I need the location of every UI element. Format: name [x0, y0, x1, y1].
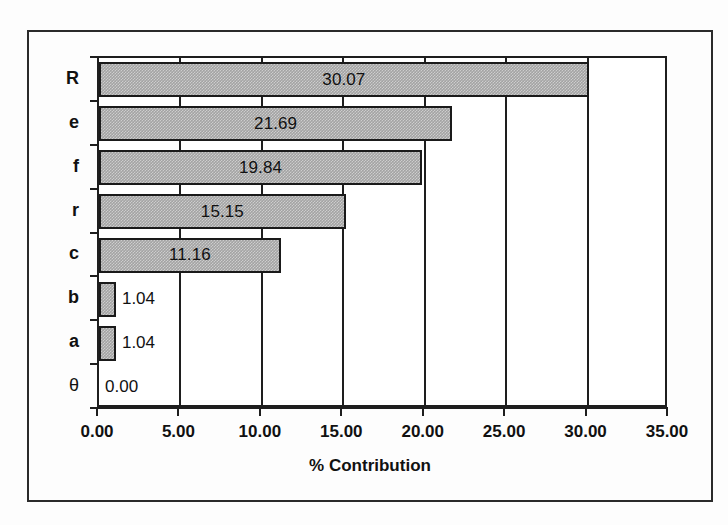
plot-area: 30.0721.6919.8415.1511.161.041.040.00	[97, 56, 667, 407]
bar-r[interactable]: 15.15	[99, 194, 346, 229]
x-axis-tick-label: 30.00	[546, 422, 626, 442]
bar-row: 19.84	[99, 150, 665, 185]
category-label-c: c	[39, 243, 79, 264]
category-label-θ: θ	[39, 375, 79, 396]
bar-row: 21.69	[99, 106, 665, 141]
bar-value-label: 1.04	[122, 289, 155, 309]
bar-a[interactable]	[99, 326, 116, 361]
bar-row: 1.04	[99, 326, 665, 361]
y-axis-tick	[90, 407, 98, 409]
bar-row: 30.07	[99, 62, 665, 97]
bar-value-label: 15.15	[201, 202, 244, 222]
bar-row: 15.15	[99, 194, 665, 229]
x-axis-tick-label: 25.00	[464, 422, 544, 442]
category-label-b: b	[39, 287, 79, 308]
chart-frame: 30.0721.6919.8415.1511.161.041.040.00 0.…	[27, 30, 713, 502]
bar-b[interactable]	[99, 282, 116, 317]
bar-row: 11.16	[99, 238, 665, 273]
x-axis-tick-label: 0.00	[57, 422, 137, 442]
bar-row: 0.00	[99, 370, 665, 405]
bar-value-label: 11.16	[169, 245, 211, 265]
bar-value-label: 19.84	[239, 158, 282, 178]
bar-R[interactable]: 30.07	[99, 62, 589, 97]
bar-c[interactable]: 11.16	[99, 238, 281, 273]
y-axis-tick	[90, 188, 98, 190]
bar-value-label: 1.04	[122, 333, 155, 353]
bar-value-label: 30.07	[322, 70, 365, 90]
x-axis-tick	[259, 407, 261, 416]
bar-f[interactable]: 19.84	[99, 150, 422, 185]
y-axis-tick	[90, 100, 98, 102]
category-label-e: e	[39, 111, 79, 132]
x-axis-tick-label: 20.00	[383, 422, 463, 442]
x-axis-tick	[340, 407, 342, 416]
x-axis-tick-label: 35.00	[627, 422, 707, 442]
x-axis-tick	[503, 407, 505, 416]
y-axis-tick	[90, 232, 98, 234]
x-axis-tick	[585, 407, 587, 416]
y-axis-tick	[90, 363, 98, 365]
bar-value-label: 21.69	[254, 114, 297, 134]
x-axis-tick-label: 5.00	[138, 422, 218, 442]
x-axis-tick	[422, 407, 424, 416]
x-axis-tick-label: 10.00	[220, 422, 300, 442]
bar-row: 1.04	[99, 282, 665, 317]
category-label-a: a	[39, 331, 79, 352]
y-axis-tick	[90, 275, 98, 277]
y-axis-tick	[90, 144, 98, 146]
x-axis-title: % Contribution	[29, 456, 711, 476]
bar-value-label: 0.00	[105, 377, 138, 397]
y-axis-tick	[90, 56, 98, 58]
bar-e[interactable]: 21.69	[99, 106, 452, 141]
x-axis-tick	[666, 407, 668, 416]
x-axis-tick	[177, 407, 179, 416]
category-label-R: R	[39, 67, 79, 88]
x-axis-line	[97, 407, 667, 409]
y-axis-tick	[90, 319, 98, 321]
category-label-f: f	[39, 155, 79, 176]
category-label-r: r	[39, 199, 79, 220]
x-axis-tick-label: 15.00	[301, 422, 381, 442]
